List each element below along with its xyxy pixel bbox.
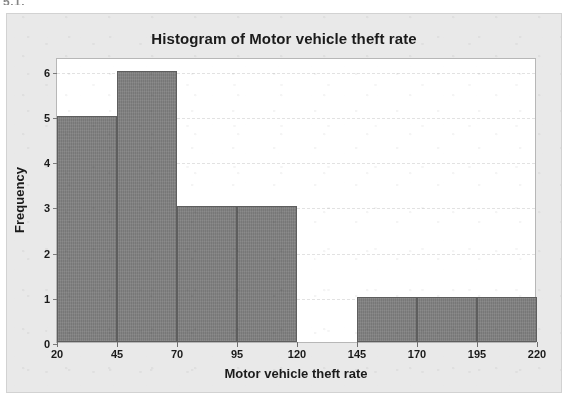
y-tick-label: 2 — [44, 248, 50, 260]
histogram-bar — [477, 297, 537, 342]
page-number-fragment: 5.1. — [3, 0, 25, 5]
y-axis-label: Frequency — [12, 167, 27, 233]
chart-title: Histogram of Motor vehicle theft rate — [7, 30, 561, 47]
x-tick-mark — [357, 342, 358, 347]
x-tick-label: 70 — [171, 348, 183, 360]
x-tick-label: 195 — [468, 348, 486, 360]
plot-area: 0123456 20457095120145170195220 — [56, 58, 536, 343]
x-tick-label: 220 — [528, 348, 546, 360]
y-tick-label: 5 — [44, 112, 50, 124]
y-tick-label: 0 — [44, 338, 50, 350]
y-tick-label: 6 — [44, 67, 50, 79]
y-tick-label: 3 — [44, 202, 50, 214]
x-tick-label: 120 — [288, 348, 306, 360]
y-tick-label: 1 — [44, 293, 50, 305]
histogram-bar — [237, 206, 297, 342]
x-tick-label: 45 — [111, 348, 123, 360]
x-tick-label: 170 — [408, 348, 426, 360]
histogram-bar — [57, 116, 117, 342]
x-tick-mark — [417, 342, 418, 347]
x-tick-label: 20 — [51, 348, 63, 360]
y-tick-label: 4 — [44, 157, 50, 169]
x-tick-mark — [537, 342, 538, 347]
x-tick-mark — [57, 342, 58, 347]
x-tick-label: 145 — [348, 348, 366, 360]
x-tick-mark — [297, 342, 298, 347]
histogram-bar — [417, 297, 477, 342]
histogram-bar — [357, 297, 417, 342]
x-axis-label: Motor vehicle theft rate — [56, 366, 536, 381]
histogram-bar — [177, 206, 237, 342]
histogram-figure: Histogram of Motor vehicle theft rate 01… — [6, 13, 562, 393]
x-tick-mark — [237, 342, 238, 347]
x-tick-mark — [117, 342, 118, 347]
x-tick-label: 95 — [231, 348, 243, 360]
x-tick-mark — [477, 342, 478, 347]
histogram-bar — [117, 71, 177, 342]
x-tick-mark — [177, 342, 178, 347]
y-tick-mark — [53, 73, 57, 74]
